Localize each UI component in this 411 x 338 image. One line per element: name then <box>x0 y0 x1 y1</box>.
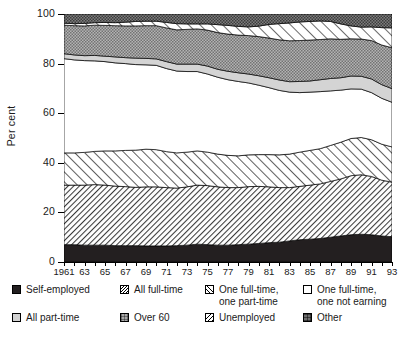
x-tick <box>167 262 168 266</box>
x-tick <box>208 262 209 266</box>
y-tick-label: 80 <box>1 58 55 68</box>
x-tick <box>85 262 86 266</box>
x-tick <box>64 262 65 266</box>
legend-swatch-icon <box>12 313 21 322</box>
y-tick-label: 0 <box>1 256 55 266</box>
x-tick <box>187 262 188 266</box>
x-tick <box>136 262 137 266</box>
legend-swatch-icon <box>205 313 214 322</box>
x-tick <box>115 262 116 266</box>
chart-figure: 020406080100 Per cent <box>0 0 411 338</box>
x-tick <box>177 262 178 266</box>
legend-item[interactable]: One full-time,one not earning <box>303 284 387 307</box>
y-tick <box>58 64 64 65</box>
x-tick <box>269 262 270 266</box>
x-tick <box>95 262 96 266</box>
x-tick <box>74 262 75 266</box>
x-tick <box>197 262 198 266</box>
x-tick <box>259 262 260 266</box>
y-tick <box>58 163 64 164</box>
y-tick-label: 40 <box>1 157 55 167</box>
legend-label: Over 60 <box>134 312 170 324</box>
legend-label: Other <box>317 312 342 324</box>
x-tick <box>249 262 250 266</box>
legend-label-line2: one part-time <box>219 296 278 308</box>
area-series-group <box>64 14 392 262</box>
x-tick <box>320 262 321 266</box>
y-tick-label: 20 <box>1 206 55 216</box>
legend-label-line2: one not earning <box>317 296 387 308</box>
legend: Self-employedAll full-timeOne full-time,… <box>0 284 411 338</box>
y-tick <box>58 14 64 15</box>
x-tick <box>228 262 229 266</box>
legend-item[interactable]: Other <box>303 312 342 324</box>
x-tick <box>156 262 157 266</box>
legend-swatch-icon <box>120 313 129 322</box>
legend-item[interactable]: Over 60 <box>120 312 170 324</box>
x-tick <box>105 262 106 266</box>
x-tick <box>331 262 332 266</box>
plot-area: 020406080100 Per cent <box>0 0 411 272</box>
x-tick <box>382 262 383 266</box>
x-tick <box>238 262 239 266</box>
x-tick <box>290 262 291 266</box>
legend-item[interactable]: One full-time,one part-time <box>205 284 278 307</box>
y-tick-label: 100 <box>1 8 55 18</box>
y-axis-title: Per cent <box>5 96 17 156</box>
x-tick <box>218 262 219 266</box>
legend-item[interactable]: Unemployed <box>205 312 275 324</box>
legend-label: All full-time <box>134 284 183 296</box>
x-tick <box>341 262 342 266</box>
x-tick <box>126 262 127 266</box>
y-tick <box>58 212 64 213</box>
legend-label: Self-employed <box>26 284 90 296</box>
x-axis-labels: 196163656769717375777981838587899193 <box>0 266 411 280</box>
x-tick <box>279 262 280 266</box>
y-tick <box>58 113 64 114</box>
legend-swatch-icon <box>120 285 129 294</box>
stacked-area-plot <box>64 14 392 262</box>
legend-swatch-icon <box>12 285 21 294</box>
x-tick <box>351 262 352 266</box>
x-tick <box>372 262 373 266</box>
x-tick-label: 93 <box>379 266 405 277</box>
x-tick <box>146 262 147 266</box>
legend-label: One full-time, <box>317 284 376 296</box>
legend-item[interactable]: All part-time <box>12 312 79 324</box>
legend-swatch-icon <box>303 285 312 294</box>
legend-swatch-icon <box>303 313 312 322</box>
x-tick <box>392 262 393 266</box>
legend-label: All part-time <box>26 312 79 324</box>
legend-item[interactable]: All full-time <box>120 284 183 296</box>
x-tick <box>361 262 362 266</box>
legend-item[interactable]: Self-employed <box>12 284 90 296</box>
legend-label: One full-time, <box>219 284 278 296</box>
x-tick <box>300 262 301 266</box>
x-tick <box>310 262 311 266</box>
legend-label: Unemployed <box>219 312 275 324</box>
legend-swatch-icon <box>205 285 214 294</box>
